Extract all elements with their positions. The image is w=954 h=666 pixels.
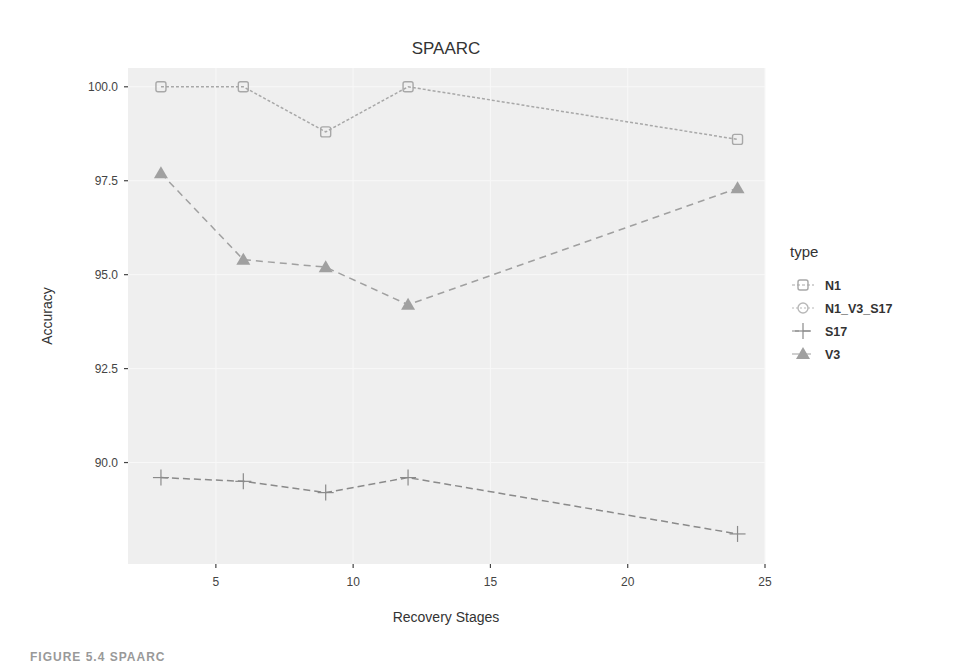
x-tick-label: 25 — [758, 575, 772, 589]
legend: type N1N1_V3_S17S17V3 — [790, 243, 892, 362]
x-tick-label: 10 — [346, 575, 360, 589]
y-tick-label: 95.0 — [95, 268, 119, 282]
plot-panel — [128, 68, 765, 564]
y-tick-label: 100.0 — [88, 80, 118, 94]
circle-marker-icon — [798, 303, 808, 313]
legend-item-n1_v3_s17: N1_V3_S17 — [792, 302, 892, 316]
x-tick-label: 20 — [621, 575, 635, 589]
legend-label: N1 — [825, 279, 841, 293]
x-tick-label: 15 — [484, 575, 498, 589]
y-tick-label: 92.5 — [95, 362, 119, 376]
legend-label: N1_V3_S17 — [825, 302, 892, 316]
figure-caption: FIGURE 5.4 SPAARC — [30, 650, 165, 664]
legend-label: V3 — [825, 348, 840, 362]
line-chart: 51015202590.092.595.097.5100.0 SPAARC Re… — [0, 0, 954, 666]
x-axis-label: Recovery Stages — [393, 609, 500, 625]
plus-marker-icon — [795, 323, 811, 339]
y-axis-label: Accuracy — [39, 287, 55, 345]
legend-item-s17: S17 — [792, 323, 847, 339]
legend-title: type — [790, 243, 818, 260]
chart-title: SPAARC — [412, 39, 481, 58]
triangle-marker-icon — [796, 347, 810, 359]
legend-label: S17 — [825, 325, 847, 339]
x-tick-label: 5 — [213, 575, 220, 589]
legend-item-v3: V3 — [792, 347, 840, 362]
legend-item-n1: N1 — [792, 279, 841, 293]
y-tick-label: 97.5 — [95, 174, 119, 188]
y-tick-label: 90.0 — [95, 456, 119, 470]
